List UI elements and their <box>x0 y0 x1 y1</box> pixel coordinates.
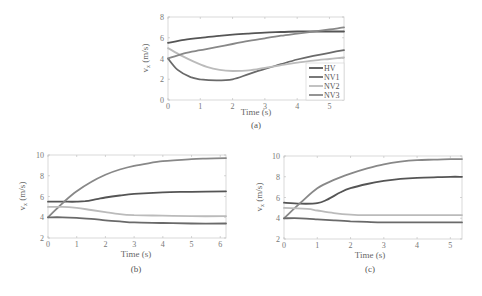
x-tick-label: 4 <box>161 240 165 249</box>
y-axis-label: vx (m/s) <box>254 183 265 212</box>
x-axis-label: Time (s) <box>121 249 151 259</box>
x-tick-label: 1 <box>198 102 202 111</box>
panel-caption: (c) <box>365 264 375 274</box>
chart-panel-c: 012345246810Time (s)vx (m/s)(c) <box>254 152 462 274</box>
series-line-hv <box>168 31 344 42</box>
y-tick-label: 4 <box>40 213 44 222</box>
y-tick-label: 2 <box>160 75 164 84</box>
x-tick-label: 5 <box>190 240 194 249</box>
y-tick-label: 4 <box>276 214 280 223</box>
series-line-hv <box>284 177 462 204</box>
x-tick-label: 0 <box>46 240 50 249</box>
y-tick-label: 8 <box>276 173 280 182</box>
axes-box <box>48 155 226 238</box>
x-tick-label: 4 <box>415 241 419 250</box>
panel-caption: (b) <box>131 264 142 274</box>
legend-label: NV3 <box>324 91 340 100</box>
x-axis-label: Time (s) <box>241 107 271 117</box>
y-tick-label: 8 <box>160 13 164 22</box>
y-tick-label: 6 <box>160 34 164 43</box>
x-tick-label: 5 <box>327 102 331 111</box>
y-tick-label: 2 <box>276 235 280 244</box>
x-axis-label: Time (s) <box>355 250 385 260</box>
panel-caption: (a) <box>251 120 261 130</box>
y-axis-label: vx (m/s) <box>140 44 151 73</box>
legend-label: HV <box>324 64 336 73</box>
chart-panel-a: 01234502468Time (s)vx (m/s)(a)HVNV1NV2NV… <box>140 13 344 130</box>
series-line-nv3 <box>284 218 462 222</box>
legend: HVNV1NV2NV3 <box>306 63 344 100</box>
series-line-nv3 <box>48 217 226 223</box>
x-tick-label: 6 <box>218 240 222 249</box>
y-tick-label: 6 <box>40 193 44 202</box>
x-tick-label: 0 <box>282 241 286 250</box>
legend-label: NV1 <box>324 73 340 82</box>
series-line-nv2 <box>48 207 226 216</box>
y-tick-label: 0 <box>160 96 164 105</box>
x-tick-label: 3 <box>132 240 136 249</box>
x-tick-label: 5 <box>448 241 452 250</box>
series-line-nv2 <box>284 208 462 215</box>
y-axis-label: vx (m/s) <box>17 182 28 211</box>
x-tick-label: 1 <box>315 241 319 250</box>
x-tick-label: 3 <box>382 241 386 250</box>
y-tick-label: 4 <box>160 55 164 64</box>
chart-panel-b: 0123456246810Time (s)vx (m/s)(b) <box>17 151 226 274</box>
y-tick-label: 10 <box>36 151 44 160</box>
x-tick-label: 2 <box>349 241 353 250</box>
axes-box <box>284 156 462 239</box>
y-tick-label: 8 <box>40 172 44 181</box>
figure-canvas: 01234502468Time (s)vx (m/s)(a)HVNV1NV2NV… <box>0 0 482 296</box>
x-tick-label: 0 <box>166 102 170 111</box>
x-tick-label: 2 <box>231 102 235 111</box>
y-tick-label: 10 <box>272 152 280 161</box>
x-tick-label: 2 <box>103 240 107 249</box>
y-tick-label: 6 <box>276 194 280 203</box>
x-tick-label: 4 <box>295 102 299 111</box>
y-tick-label: 2 <box>40 234 44 243</box>
x-tick-label: 1 <box>75 240 79 249</box>
legend-label: NV2 <box>324 82 340 91</box>
